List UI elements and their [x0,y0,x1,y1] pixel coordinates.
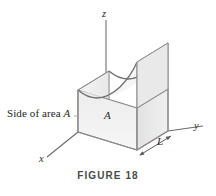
length-label-l: L [157,136,163,147]
solid-geometry-diagram [0,0,216,196]
axis-label-x: x [39,154,44,165]
figure-caption: FIGURE 18 [0,170,216,181]
side-of-area-annotation: Side of area A [7,108,70,119]
axis-label-z: z [102,9,106,20]
x-axis-segment [47,132,78,157]
axis-label-y: y [194,121,199,132]
figure-18-illustration: z y x A L Side of area A FIGURE 18 [0,0,216,196]
side-of-area-text: Side of area [7,107,64,119]
side-of-area-variable: A [64,107,71,119]
area-label-a: A [104,110,111,121]
